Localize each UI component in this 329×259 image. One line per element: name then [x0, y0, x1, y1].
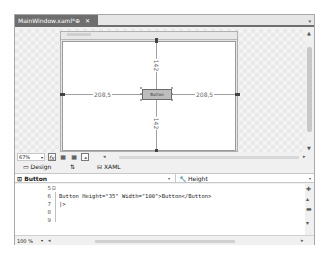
- document-tab-mainwindow[interactable]: MainWindow.xaml* ⊕ ✕: [15, 15, 98, 27]
- right-margin-handle[interactable]: [235, 93, 240, 96]
- scroll-down-icon[interactable]: ▼: [307, 145, 311, 151]
- chevron-down-icon: ▾: [41, 237, 43, 245]
- resize-handle-bl[interactable]: [140, 99, 142, 101]
- code-line: 5 ⊟: [15, 184, 305, 192]
- code-horizontal-scrollbar[interactable]: [95, 240, 235, 243]
- snap-lines-icon[interactable]: ⌖: [81, 153, 89, 161]
- code-vertical-scrollbar[interactable]: ✚ ▴ ▬ ▾: [305, 184, 314, 235]
- element-selector[interactable]: ⊡ Button: [17, 174, 47, 183]
- artboard-title-bar: [61, 32, 237, 40]
- code-status-bar: 100 % ▾ ◂ ▸: [15, 235, 314, 245]
- line-number: 9: [41, 216, 51, 224]
- scroll-left-icon[interactable]: ◂: [103, 153, 106, 159]
- artboard-canvas[interactable]: 142 142 208,5 208,5 Button: [62, 41, 236, 151]
- zoom-level-dropdown[interactable]: 67% ▾: [17, 153, 45, 161]
- xaml-code-editor[interactable]: 5 ⊟ 6 Button Height="35" Width="100">But…: [15, 184, 305, 235]
- line-number: 8: [41, 208, 51, 216]
- code-zoom-value: 100 %: [17, 238, 33, 244]
- code-line: 6 Button Height="35" Width="100">Button<…: [15, 192, 305, 200]
- selected-button-element[interactable]: Button: [142, 89, 172, 100]
- scroll-right-icon[interactable]: ▸: [301, 237, 304, 243]
- margin-top-value: 142: [153, 59, 160, 72]
- resize-handle-l[interactable]: [140, 93, 142, 95]
- design-horizontal-scrollbar[interactable]: [119, 156, 299, 159]
- close-icon[interactable]: ✕: [85, 15, 90, 27]
- window-artboard-frame: 142 142 208,5 208,5 Button: [60, 31, 238, 152]
- resize-handle-tr[interactable]: [171, 87, 173, 89]
- top-margin-handle[interactable]: [155, 38, 158, 43]
- resize-handle-r[interactable]: [171, 93, 173, 95]
- fx-effects-icon[interactable]: fx: [48, 153, 56, 161]
- snap-grid-icon[interactable]: ▦: [70, 153, 78, 161]
- collapse-icon[interactable]: ⊟: [52, 185, 56, 191]
- scroll-thumb[interactable]: [307, 47, 312, 132]
- split-icon[interactable]: ✚: [306, 186, 311, 192]
- code-line: 7 |>: [15, 200, 305, 208]
- margin-left-value: 208,5: [93, 91, 112, 98]
- tab-design[interactable]: ▭ Design: [23, 163, 51, 171]
- margin-bottom-value: 142: [153, 117, 160, 130]
- scroll-left-icon[interactable]: ◂: [48, 237, 51, 243]
- design-surface[interactable]: 142 142 208,5 208,5 Button: [15, 29, 305, 152]
- pane-layout-buttons: ▯▭✕: [291, 163, 312, 171]
- design-vertical-scrollbar[interactable]: ▲ ▼: [305, 29, 314, 152]
- document-tab-bar: MainWindow.xaml* ⊕ ✕ ▾: [15, 15, 314, 27]
- code-line: 8: [15, 208, 305, 216]
- scroll-thumb[interactable]: ▬: [306, 206, 312, 212]
- grid-icon[interactable]: ▦: [59, 153, 67, 161]
- chevron-down-icon[interactable]: ▾: [168, 174, 170, 183]
- line-number: 5: [41, 184, 51, 192]
- margin-right-value: 208,5: [195, 91, 214, 98]
- resize-handle-tl[interactable]: [140, 87, 142, 89]
- document-tab-title: MainWindow.xaml*: [18, 17, 75, 24]
- line-number: 7: [41, 200, 51, 208]
- tab-xaml[interactable]: ⊟ XAML: [97, 163, 121, 171]
- element-property-selector-bar: ⊡ Button ▾ 🔧 Height ▾: [15, 173, 314, 183]
- property-selector[interactable]: 🔧 Height: [179, 174, 208, 183]
- swap-panes-button[interactable]: ⇅: [70, 163, 75, 171]
- line-number: 6: [41, 192, 51, 200]
- artboard-title-placeholder: [67, 33, 91, 36]
- code-line: 9: [15, 216, 305, 224]
- scroll-up-icon[interactable]: ▴: [306, 196, 309, 202]
- chevron-down-icon[interactable]: ▾: [309, 174, 311, 183]
- scroll-up-icon[interactable]: ▲: [307, 30, 311, 36]
- code-zoom-dropdown[interactable]: 100 % ▾: [17, 237, 43, 245]
- chevron-down-icon: ▾: [41, 154, 43, 161]
- divider: [175, 174, 176, 183]
- zoom-level-value: 67%: [19, 154, 30, 160]
- pin-icon[interactable]: ⊕: [75, 15, 80, 27]
- design-toolbar: 67% ▾ fx ▦ ▦ ⌖ ◂ ▸: [15, 152, 314, 162]
- resize-handle-br[interactable]: [171, 99, 173, 101]
- tab-dropdown-icon[interactable]: ▾: [308, 15, 311, 27]
- scroll-right-icon[interactable]: ▸: [303, 153, 306, 159]
- view-tabs: ▭ Design ⇅ ⊟ XAML ▯▭✕: [15, 162, 314, 172]
- left-margin-handle[interactable]: [60, 93, 65, 96]
- scroll-down-icon[interactable]: ▾: [306, 220, 309, 226]
- xaml-designer-window: MainWindow.xaml* ⊕ ✕ ▾ 142 14: [14, 14, 315, 245]
